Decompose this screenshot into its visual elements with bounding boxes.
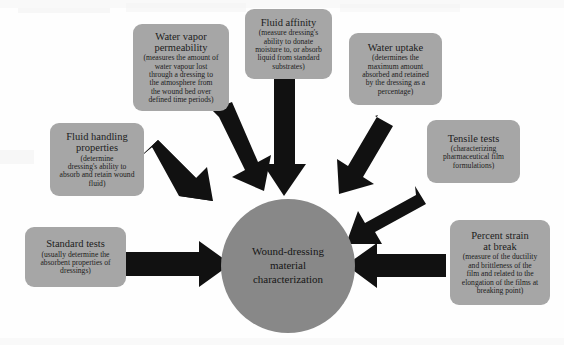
node-title: Standard tests (46, 238, 105, 249)
node-fluid-handling-properties[interactable]: Fluid handling properties (determine dre… (50, 123, 144, 196)
node-title: Fluid affinity (261, 17, 317, 28)
node-water-vapor-permeability[interactable]: Water vapor permeability (measures the a… (133, 24, 229, 111)
center-hub[interactable]: Wound-dressing material characterization (221, 199, 355, 333)
node-water-uptake[interactable]: Water uptake (determines the maximum amo… (349, 33, 442, 105)
node-description: (characterizing pharmaceutical film form… (443, 145, 504, 170)
node-tensile-tests[interactable]: Tensile tests (characterizing pharmaceut… (427, 120, 520, 183)
center-hub-label: Wound-dressing material characterization (252, 245, 324, 286)
node-standard-tests[interactable]: Standard tests (usually determine the ab… (25, 227, 126, 287)
arrow-fluid-handling (139, 140, 213, 201)
arrow-water-uptake (337, 115, 393, 194)
node-title: Water vapor permeability (154, 31, 207, 54)
node-description: (determine dressing's ability to absorb … (60, 155, 135, 188)
arrow-water-vapor (212, 102, 271, 191)
arrow-tensile-tests (346, 186, 426, 244)
arrow-percent-strain (346, 243, 446, 288)
node-description: (measure dressing's ability to donate mo… (255, 29, 322, 71)
arrow-fluid-affinity (263, 79, 306, 196)
node-title: Tensile tests (448, 133, 499, 144)
arrow-standard-tests (126, 241, 231, 287)
node-description: (measures the amount of water vapour los… (144, 54, 219, 104)
node-description: (determines the maximum amount absorbed … (362, 54, 429, 96)
node-title: Fluid handling properties (66, 131, 128, 154)
node-percent-strain-at-break[interactable]: Percent strain at break (measure of the … (450, 220, 550, 305)
wound-dressing-characterization-diagram: Water vapor permeability (measures the a… (0, 0, 564, 345)
node-title: Water uptake (368, 42, 423, 53)
node-description: (measure of the ductility and brittlenes… (462, 253, 538, 295)
node-description: (usually determine the absorbent propert… (40, 251, 110, 276)
node-fluid-affinity[interactable]: Fluid affinity (measure dressing's abili… (245, 9, 332, 79)
node-title: Percent strain at break (471, 230, 528, 253)
